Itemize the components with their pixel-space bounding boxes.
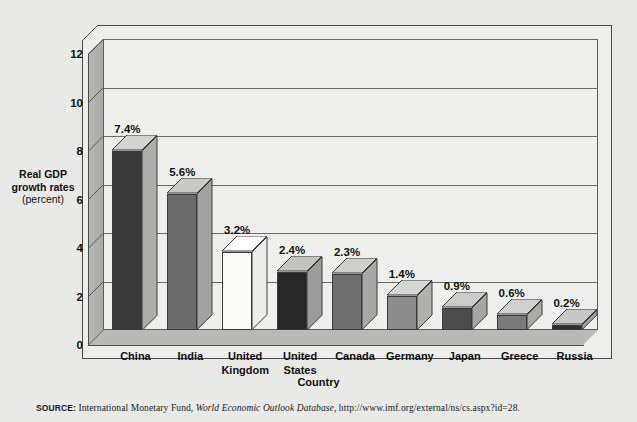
- x-tick-label: India: [177, 349, 203, 363]
- bar-top-face: [442, 292, 488, 308]
- y-tick-label: 6: [77, 194, 83, 206]
- bar-top-face: [222, 236, 268, 252]
- x-tick-label: Germany: [386, 349, 434, 363]
- bar-top-face: [552, 309, 598, 325]
- bar-value-label: 3.2%: [224, 224, 250, 236]
- bar-front-face: [442, 308, 472, 330]
- bar: 3.2%: [222, 252, 252, 330]
- x-tick-label: China: [120, 349, 151, 363]
- bar-value-label: 2.4%: [279, 244, 305, 256]
- bar-front-face: [277, 272, 307, 330]
- bar-front-face: [112, 151, 142, 330]
- bar: 0.2%: [552, 325, 582, 330]
- bar-side-face: [142, 135, 158, 330]
- bar: 2.3%: [332, 274, 362, 330]
- y-tick-label: 2: [77, 291, 83, 303]
- bar-top-face: [167, 178, 213, 194]
- x-tick-label: Japan: [449, 349, 481, 363]
- figure-page: Real GDP growth rates (percent) 02468101…: [0, 0, 637, 422]
- bar-front-face: [497, 315, 527, 330]
- plot-floor-front-edge: [88, 345, 584, 346]
- plot-area: 024681012 7.4%5.6%3.2%2.4%2.3%1.4%0.9%0.…: [88, 39, 598, 345]
- source-text-before: International Monetary Fund,: [76, 403, 196, 413]
- source-publication: World Economic Outlook Database: [196, 403, 334, 413]
- source-note: SOURCE: International Monetary Fund, Wor…: [36, 403, 520, 413]
- x-axis-title: Country: [0, 376, 637, 388]
- bar-value-label: 7.4%: [114, 123, 140, 135]
- bar-front-face: [387, 296, 417, 330]
- x-tick-label: Greece: [501, 349, 538, 363]
- x-tick-label: Russia: [557, 349, 593, 363]
- bar-front-face: [552, 325, 582, 330]
- bar: 7.4%: [112, 151, 142, 330]
- bar-series: 7.4%5.6%3.2%2.4%2.3%1.4%0.9%0.6%0.2%: [88, 39, 598, 345]
- bar-value-label: 0.9%: [444, 280, 470, 292]
- bar-top-face: [497, 299, 543, 315]
- y-tick-label: 12: [70, 48, 83, 60]
- bar: 2.4%: [277, 272, 307, 330]
- bar: 0.6%: [497, 315, 527, 330]
- x-tick-label: United States: [283, 349, 317, 377]
- bar-value-label: 5.6%: [169, 166, 195, 178]
- y-axis-title-unit: (percent): [22, 193, 64, 205]
- bar-top-face: [332, 258, 378, 274]
- bar: 0.9%: [442, 308, 472, 330]
- source-label: SOURCE:: [36, 403, 76, 413]
- bar-top-face: [277, 256, 323, 272]
- y-tick-label: 4: [77, 242, 83, 254]
- y-tick-label: 8: [77, 145, 83, 157]
- bar-value-label: 1.4%: [389, 268, 415, 280]
- bar-front-face: [222, 252, 252, 330]
- bar: 5.6%: [167, 194, 197, 330]
- y-axis-title: Real GDP growth rates (percent): [8, 168, 78, 206]
- bar-value-label: 0.6%: [499, 287, 525, 299]
- source-url: , http://www.imf.org/external/ns/cs.aspx…: [334, 403, 520, 413]
- bar: 1.4%: [387, 296, 417, 330]
- bar-side-face: [197, 178, 213, 330]
- bar-front-face: [167, 194, 197, 330]
- y-axis-title-text: Real GDP growth rates: [11, 168, 74, 193]
- bar-top-face: [387, 280, 433, 296]
- y-tick-label: 10: [70, 97, 83, 109]
- y-tick-label: 0: [77, 339, 83, 351]
- bar-value-label: 2.3%: [334, 246, 360, 258]
- bar-front-face: [332, 274, 362, 330]
- x-tick-label: Canada: [335, 349, 375, 363]
- bar-top-face: [112, 135, 158, 151]
- x-tick-label: United Kingdom: [221, 349, 269, 377]
- bar-value-label: 0.2%: [553, 297, 579, 309]
